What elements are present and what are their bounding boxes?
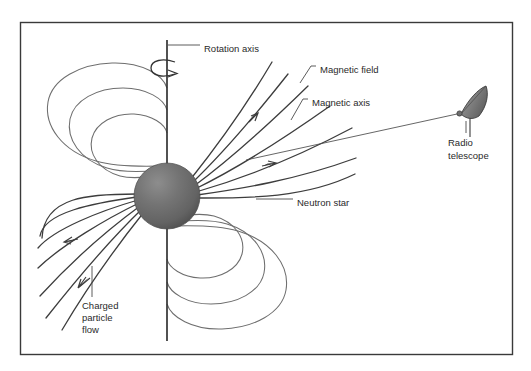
label-charged-particle-flow-line-2: particle — [82, 312, 113, 323]
pulsar-diagram-figure: Rotation axis Magnetic field Magnetic ax… — [0, 0, 531, 371]
label-charged-particle-flow-line-1: Charged — [82, 300, 118, 311]
label-rotation-axis: Rotation axis — [204, 43, 259, 54]
telescope-feed-horn — [457, 111, 462, 116]
diagram-canvas: Rotation axis Magnetic field Magnetic ax… — [0, 0, 531, 371]
label-radio-telescope-line-2: telescope — [448, 150, 489, 161]
label-magnetic-axis: Magnetic axis — [312, 97, 370, 108]
label-magnetic-field: Magnetic field — [320, 64, 379, 75]
label-neutron-star: Neutron star — [297, 197, 349, 208]
label-charged-particle-flow-line-3: flow — [82, 324, 99, 335]
label-radio-telescope-line-1: Radio — [448, 137, 473, 148]
